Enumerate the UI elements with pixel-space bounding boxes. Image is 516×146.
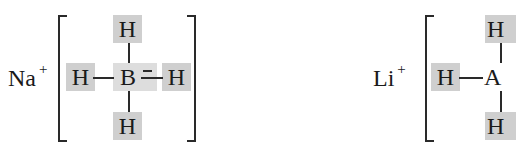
aluminum-center: A — [484, 63, 506, 91]
bond-bottom — [128, 91, 130, 112]
atom-label: H — [168, 65, 185, 89]
bond-mark — [143, 70, 152, 72]
hydrogen-left: H — [431, 63, 460, 91]
cation-charge: + — [397, 61, 405, 77]
bond-right — [141, 77, 163, 79]
bond-top — [128, 43, 130, 63]
atom-label: H — [487, 114, 504, 138]
atom-label: H — [487, 17, 504, 41]
cation-symbol: Li — [373, 65, 394, 91]
lithium-cation: Li+ — [373, 66, 406, 90]
bond-left — [93, 77, 114, 79]
hydrogen-top: H — [485, 15, 516, 43]
atom-label: B — [120, 65, 136, 89]
cation-symbol: Na — [8, 65, 36, 91]
atom-label: H — [72, 65, 89, 89]
bond-top — [500, 43, 502, 63]
atom-label: A — [484, 65, 501, 89]
atom-label: H — [119, 17, 136, 41]
sodium-cation: Na+ — [8, 66, 47, 90]
cation-charge: + — [39, 61, 47, 77]
hydrogen-left: H — [66, 63, 95, 91]
atom-label: H — [437, 65, 454, 89]
hydrogen-bottom: H — [113, 112, 142, 140]
atom-label: H — [119, 114, 136, 138]
hydrogen-top: H — [113, 15, 142, 43]
bond-bottom — [500, 91, 502, 112]
hydrogen-right: H — [162, 63, 191, 91]
bond-left — [459, 77, 483, 79]
hydrogen-bottom: H — [485, 112, 516, 140]
